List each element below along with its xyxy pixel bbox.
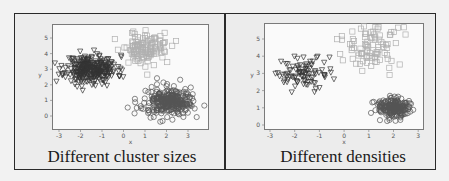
svg-text:1: 1 [256,104,260,111]
svg-text:5: 5 [256,35,260,42]
svg-text:-1: -1 [316,132,322,139]
svg-text:3: 3 [256,69,260,76]
svg-text:2: 2 [392,132,396,139]
svg-text:-3: -3 [267,132,273,139]
svg-text:2: 2 [256,87,260,94]
svg-text:0: 0 [256,121,260,128]
svg-text:y: y [250,71,254,79]
svg-text:3: 3 [416,132,420,139]
svg-text:x: x [342,138,346,145]
caption-densities: Different densities [243,147,443,167]
svg-text:1: 1 [367,132,371,139]
svg-text:4: 4 [256,52,260,59]
svg-text:-2: -2 [292,132,298,139]
